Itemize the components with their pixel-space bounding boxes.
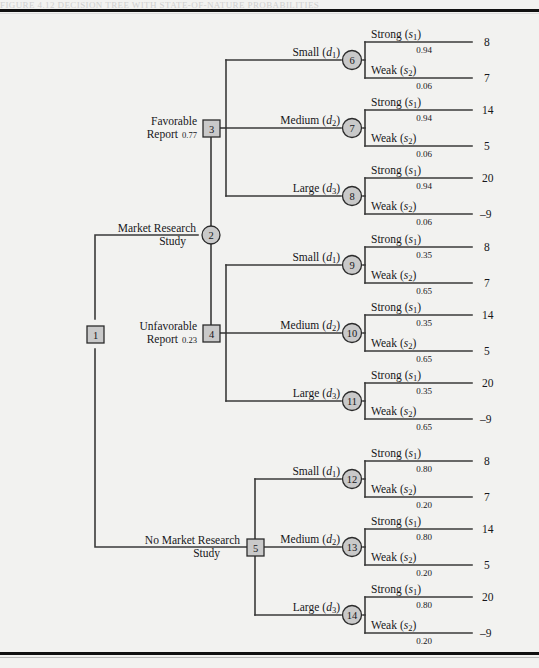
- state-label-weak-n10: Weak(s2): [371, 337, 416, 351]
- node3-edges: [219, 60, 341, 196]
- probability-n8-weak: 0.06: [416, 217, 432, 227]
- node-9[interactable]: 9: [343, 256, 362, 275]
- decision-label-small-n9: Small(d1): [292, 251, 340, 265]
- node-6[interactable]: 6: [343, 51, 362, 70]
- payoff-n11-weak: –9: [479, 413, 492, 425]
- node5-edges: [255, 479, 341, 615]
- decision-label-small-n6: Small(d1): [292, 46, 340, 60]
- probability-n11-strong: 0.35: [416, 386, 432, 396]
- payoff-n11-strong: 20: [482, 377, 494, 389]
- state-label-strong-n14: Strong(s1): [371, 583, 421, 597]
- payoff-n12-strong: 8: [484, 455, 490, 467]
- edge-1-to-5: [95, 349, 255, 547]
- probability-n13-strong: 0.80: [416, 532, 432, 542]
- payoff-n7-strong: 14: [482, 104, 494, 116]
- node-8-label: 8: [349, 191, 354, 202]
- node-1-label: 1: [93, 330, 98, 341]
- decision-label-large-n8: Large(d3): [293, 182, 340, 196]
- favorable-line2: Report0.77: [147, 128, 198, 141]
- edge-1-to-2: [95, 235, 198, 319]
- payoff-n10-weak: 5: [484, 345, 490, 357]
- payoff-n7-weak: 5: [484, 140, 490, 152]
- state-label-strong-n13: Strong(s1): [371, 515, 421, 529]
- unfavorable-line1: Unfavorable: [140, 320, 197, 332]
- state-label-weak-n11: Weak(s2): [371, 405, 416, 419]
- state-label-weak-n6: Weak(s2): [371, 64, 416, 78]
- state-label-strong-n10: Strong(s1): [371, 301, 421, 315]
- state-label-strong-n7: Strong(s1): [371, 96, 421, 110]
- probability-n12-weak: 0.20: [416, 500, 432, 510]
- node-7-label: 7: [349, 123, 354, 134]
- node-11[interactable]: 11: [343, 392, 362, 411]
- node-4-label: 4: [209, 329, 215, 340]
- payoff-n13-strong: 14: [482, 523, 494, 535]
- node-2-label: 2: [208, 230, 213, 241]
- payoff-n6-strong: 8: [484, 36, 490, 48]
- probability-n9-weak: 0.65: [416, 286, 432, 296]
- decision-label-large-n11: Large(d3): [293, 387, 340, 401]
- node-10-label: 10: [347, 328, 358, 339]
- top-rule: [0, 9, 539, 12]
- decision-label-large-n14: Large(d3): [293, 601, 340, 615]
- probability-n6-weak: 0.06: [416, 81, 432, 91]
- decision-label-medium-n10: Medium(d2): [280, 319, 340, 333]
- favorable-report-label: Favorable Report0.77: [147, 115, 198, 141]
- edge-2-to-4: [204, 235, 211, 333]
- payoff-n14-weak: –9: [479, 627, 492, 639]
- probability-n11-weak: 0.65: [416, 422, 432, 432]
- probability-n9-strong: 0.35: [416, 250, 432, 260]
- node-12-label: 12: [347, 474, 358, 485]
- state-label-strong-n9: Strong(s1): [371, 233, 421, 247]
- payoff-n8-strong: 20: [482, 172, 494, 184]
- figure-page: FIGURE 4.12 DECISION TREE WITH STATE-OF-…: [0, 0, 539, 668]
- state-label-strong-n12: Strong(s1): [371, 447, 421, 461]
- payoff-n8-weak: –9: [479, 208, 492, 220]
- probability-n7-weak: 0.06: [416, 149, 432, 159]
- probability-n13-weak: 0.20: [416, 568, 432, 578]
- state-label-weak-n7: Weak(s2): [371, 132, 416, 146]
- payoff-n12-weak: 7: [484, 491, 490, 503]
- state-label-weak-n9: Weak(s2): [371, 269, 416, 283]
- node-3[interactable]: 3: [203, 120, 220, 137]
- node-7[interactable]: 7: [343, 119, 362, 138]
- state-label-weak-n12: Weak(s2): [371, 483, 416, 497]
- state-label-strong-n8: Strong(s1): [371, 164, 421, 178]
- node-3-label: 3: [209, 124, 214, 135]
- bottom-rule: [0, 652, 539, 655]
- probability-n10-weak: 0.65: [416, 354, 432, 364]
- node-2[interactable]: 2: [202, 226, 220, 244]
- node-13[interactable]: 13: [343, 538, 362, 557]
- node-13-label: 13: [347, 542, 358, 553]
- no-market-research-line1: No Market Research: [145, 534, 240, 546]
- node-14[interactable]: 14: [343, 606, 362, 625]
- probability-n12-strong: 0.80: [416, 464, 432, 474]
- node-4[interactable]: 4: [203, 325, 220, 342]
- node-10[interactable]: 10: [343, 324, 362, 343]
- favorable-line1: Favorable: [151, 115, 197, 127]
- node-9-label: 9: [349, 260, 354, 271]
- payoff-n6-weak: 7: [484, 72, 490, 84]
- node-5[interactable]: 5: [247, 539, 264, 556]
- payoff-n13-weak: 5: [484, 559, 490, 571]
- unfavorable-report-label: Unfavorable Report0.23: [140, 320, 197, 346]
- bottom-rule-thin: [0, 657, 539, 658]
- probability-n7-strong: 0.94: [416, 113, 432, 123]
- market-research-line2: Study: [159, 235, 186, 248]
- node-8[interactable]: 8: [343, 187, 362, 206]
- node-5-label: 5: [253, 543, 258, 554]
- probability-n14-weak: 0.20: [416, 636, 432, 646]
- decision-tree-diagram: 1 2 3 4 5 6 7 8: [0, 14, 539, 650]
- probability-n14-strong: 0.80: [416, 600, 432, 610]
- edge-2-to-3: [204, 128, 211, 235]
- node-12[interactable]: 12: [343, 470, 362, 489]
- state-label-weak-n14: Weak(s2): [371, 619, 416, 633]
- payoff-n9-strong: 8: [484, 241, 490, 253]
- decision-label-small-n12: Small(d1): [292, 465, 340, 479]
- probability-n8-strong: 0.94: [416, 181, 432, 191]
- decision-label-medium-n13: Medium(d2): [280, 533, 340, 547]
- node-1[interactable]: 1: [87, 326, 104, 343]
- unfavorable-line2: Report0.23: [147, 333, 197, 346]
- probability-n6-strong: 0.94: [416, 45, 432, 55]
- state-label-strong-n11: Strong(s1): [371, 369, 421, 383]
- node-11-label: 11: [347, 396, 357, 407]
